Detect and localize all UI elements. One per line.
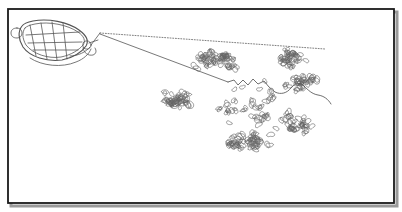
line-drawing-canvas (0, 0, 402, 212)
image-frame (8, 9, 394, 203)
figure-root (0, 0, 402, 212)
